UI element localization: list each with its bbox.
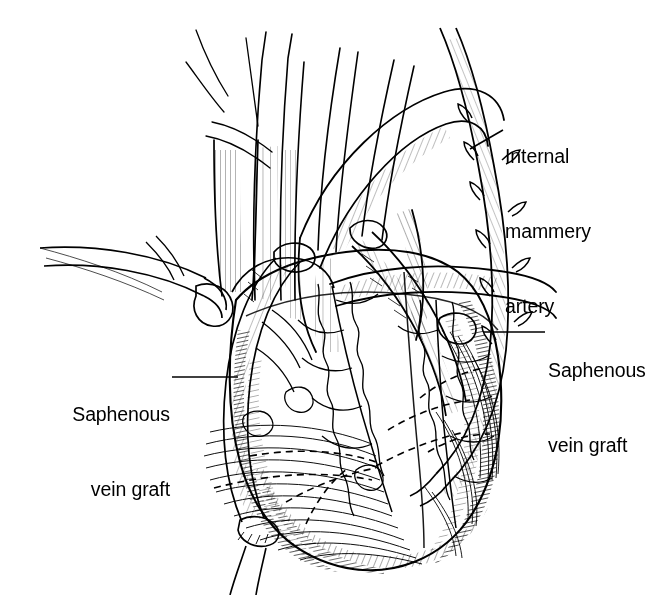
label-svg-right-line2: vein graft bbox=[548, 433, 646, 458]
label-saphenous-vein-graft-left: Saphenous vein graft bbox=[24, 352, 170, 552]
label-ima-line2: mammery bbox=[505, 219, 591, 244]
label-svg-right-line1: Saphenous bbox=[548, 358, 646, 383]
heart-illustration-figure: Internal mammery artery Saphenous vein g… bbox=[0, 0, 668, 595]
label-ima-line1: Internal bbox=[505, 144, 591, 169]
label-svg-left-line1: Saphenous bbox=[24, 402, 170, 427]
label-svg-left-line2: vein graft bbox=[24, 477, 170, 502]
label-saphenous-vein-graft-right: Saphenous vein graft bbox=[548, 308, 646, 508]
